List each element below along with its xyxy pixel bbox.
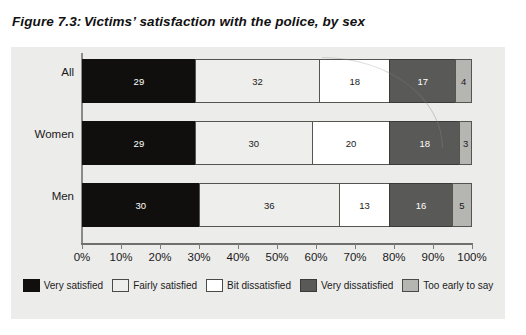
x-axis-tick: [472, 244, 473, 249]
bar-segment: 32: [195, 59, 320, 103]
legend-swatch: [300, 279, 317, 292]
legend-swatch: [23, 279, 40, 292]
x-axis-tick-label: 30%: [179, 251, 219, 263]
category-label-men: Men: [16, 190, 74, 202]
bar-row: 303613165: [82, 183, 472, 227]
legend-item: Too early to say: [402, 279, 493, 292]
x-axis-tick: [199, 244, 200, 249]
legend-item: Very dissatisfied: [300, 279, 393, 292]
legend-label: Fairly satisfied: [133, 280, 197, 291]
category-label-women: Women: [16, 128, 74, 140]
bar-segment: 18: [319, 59, 390, 103]
x-axis-tick-label: 50%: [257, 251, 297, 263]
bar-row: 293218174: [82, 59, 472, 103]
bar-segment: 13: [339, 183, 391, 227]
bar-row: 293020183: [82, 121, 472, 165]
bar-segment: 30: [195, 121, 313, 165]
legend-swatch: [402, 279, 419, 292]
bar-segment: 3: [459, 121, 472, 165]
x-axis-tick: [316, 244, 317, 249]
x-axis-tick-label: 20%: [140, 251, 180, 263]
x-axis-tick-label: 60%: [296, 251, 336, 263]
x-axis-tick: [82, 244, 83, 249]
x-axis-tick-label: 70%: [335, 251, 375, 263]
legend-item: Very satisfied: [23, 279, 103, 292]
x-axis-tick-label: 10%: [101, 251, 141, 263]
x-axis-tick-label: 40%: [218, 251, 258, 263]
chart-container: 0%10%20%30%40%50%60%70%80%90%100% AllWom…: [11, 47, 505, 319]
legend-label: Very satisfied: [44, 280, 103, 291]
page-title: Figure 7.3:Victims’ satisfaction with th…: [12, 14, 512, 34]
x-axis-tick: [433, 244, 434, 249]
x-axis-tick-label: 90%: [413, 251, 453, 263]
x-axis-tick: [238, 244, 239, 249]
bar-segment: 30: [82, 183, 200, 227]
legend-item: Fairly satisfied: [112, 279, 197, 292]
bar-segment: 17: [389, 59, 456, 103]
bar-segment: 20: [312, 121, 391, 165]
figure-title-text: Victims’ satisfaction with the police, b…: [84, 14, 365, 29]
bar-segment: 16: [389, 183, 452, 227]
chart-legend: Very satisfiedFairly satisfiedBit dissat…: [11, 279, 505, 292]
bar-segment: 29: [82, 121, 196, 165]
x-axis-tick-label: 80%: [374, 251, 414, 263]
legend-label: Too early to say: [423, 280, 493, 291]
bar-segment: 5: [452, 183, 472, 227]
bar-segment: 4: [455, 59, 472, 103]
x-axis-tick: [355, 244, 356, 249]
legend-swatch: [112, 279, 129, 292]
plot-area: 293218174293020183303613165: [82, 55, 472, 240]
x-axis-tick: [121, 244, 122, 249]
legend-label: Bit dissatisfied: [227, 280, 291, 291]
legend-label: Very dissatisfied: [321, 280, 393, 291]
x-axis-tick-label: 0%: [62, 251, 102, 263]
x-axis-tick: [160, 244, 161, 249]
category-label-all: All: [16, 66, 74, 78]
x-axis-tick-label: 100%: [452, 251, 492, 263]
bar-segment: 29: [82, 59, 196, 103]
bar-segment: 18: [389, 121, 460, 165]
x-axis-tick: [277, 244, 278, 249]
x-axis-tick: [394, 244, 395, 249]
legend-item: Bit dissatisfied: [206, 279, 291, 292]
bar-segment: 36: [199, 183, 340, 227]
figure-number: Figure 7.3:: [12, 14, 84, 29]
legend-swatch: [206, 279, 223, 292]
